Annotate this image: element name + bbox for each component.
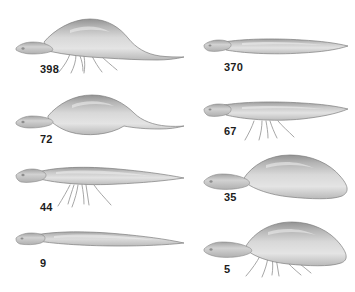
specimen-67-body [224,102,348,120]
specimen-370-label: 370 [224,62,243,73]
specimen-67-label: 67 [224,126,237,137]
specimen-35-eye [209,180,212,182]
specimen-370: 370 [202,34,352,60]
specimen-398-label: 398 [40,64,59,75]
specimen-5-eye [209,248,212,250]
specimen-44-eye [21,174,24,176]
specimen-398-body [44,19,184,60]
specimen-370-drawing [202,34,352,60]
specimen-67-head [204,104,231,116]
specimen-9-drawing [14,228,186,256]
specimen-5: 5 [202,218,354,282]
specimen-370-body [224,39,348,54]
specimen-370-head [204,40,231,51]
morphology-figure-plate: 398 370 72 [0,0,355,292]
specimen-398: 398 [14,16,186,74]
specimen-44-head [16,169,46,182]
specimen-72: 72 [14,92,186,140]
specimen-67: 67 [202,98,352,146]
specimen-35-label: 35 [224,192,237,203]
specimen-67-eye [209,108,212,110]
specimen-9-head [16,233,45,245]
specimen-9: 9 [14,228,186,256]
specimen-398-eye [21,47,24,49]
specimen-72-eye [21,121,24,123]
specimen-67-appendages [245,121,294,140]
specimen-9-body [36,232,184,246]
specimen-5-label: 5 [224,264,230,275]
specimen-44: 44 [14,164,186,214]
specimen-44-appendages [58,185,111,207]
specimen-72-label: 72 [40,134,53,145]
specimen-9-eye [21,237,24,239]
specimen-5-body [246,222,346,266]
specimen-35: 35 [202,152,354,202]
specimen-72-body [48,95,184,135]
specimen-9-label: 9 [40,258,46,269]
specimen-44-label: 44 [40,202,53,213]
specimen-35-body [244,155,347,199]
specimen-370-eye [209,44,212,46]
specimen-44-body [38,167,184,184]
specimen-67-drawing [202,98,352,146]
